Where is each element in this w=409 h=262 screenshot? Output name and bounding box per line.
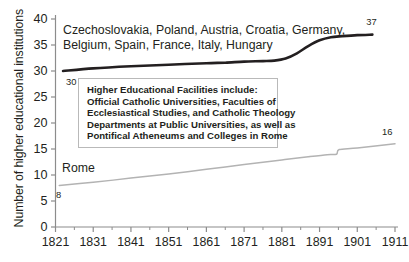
y-axis-tick-label: 40 <box>22 13 48 26</box>
endpoint-label-dark-start: 30 <box>66 77 76 86</box>
series-label-rome: Rome <box>62 161 95 176</box>
x-axis-tick-label: 1841 <box>111 236 151 248</box>
endpoint-label-rome-end: 16 <box>382 127 392 136</box>
x-axis-tick-label: 1901 <box>337 236 377 248</box>
endpoint-label-dark-end: 37 <box>366 17 376 26</box>
x-axis-tick-label: 1891 <box>300 236 340 248</box>
y-axis-tick-label: 30 <box>22 65 48 78</box>
x-axis-tick-label: 1871 <box>224 236 264 248</box>
y-axis-tick-label: 35 <box>22 39 48 52</box>
annotation-callout-box: Higher Educational Facilities include:Of… <box>78 78 278 148</box>
x-axis-tick-label: 1851 <box>149 236 189 248</box>
y-axis-tick-label: 0 <box>22 221 48 234</box>
series-label-dark-line2: Belgium, Spain, France, Italy, Hungary <box>63 38 273 53</box>
annotation-line: Pontifical Atheneums and Colleges in Rom… <box>87 130 269 142</box>
y-axis-tick-label: 15 <box>22 143 48 156</box>
annotation-line: Higher Educational Facilities include: <box>87 84 269 96</box>
series-line-rome <box>59 144 395 186</box>
x-axis-tick-label: 1911 <box>375 236 409 248</box>
y-axis-tick-label: 5 <box>22 195 48 208</box>
endpoint-label-rome-start: 8 <box>56 190 61 199</box>
x-axis-tick-label: 1821 <box>36 236 76 248</box>
y-axis-tick-label: 25 <box>22 91 48 104</box>
x-axis-tick-label: 1881 <box>262 236 302 248</box>
y-axis-tick-label: 10 <box>22 169 48 182</box>
annotation-line: Departments at Public Universities, as w… <box>87 119 269 131</box>
chart-container: Number of higher educational institution… <box>0 0 409 262</box>
annotation-line: Ecclesiastical Studies, and Catholic The… <box>87 107 269 119</box>
annotation-line: Official Catholic Universities, Facultie… <box>87 96 269 108</box>
x-axis-tick-label: 1861 <box>186 236 226 248</box>
series-label-dark-line1: Czechoslovakia, Poland, Austria, Croatia… <box>63 23 345 38</box>
x-axis-tick-label: 1831 <box>73 236 113 248</box>
y-axis-tick-label: 20 <box>22 117 48 130</box>
